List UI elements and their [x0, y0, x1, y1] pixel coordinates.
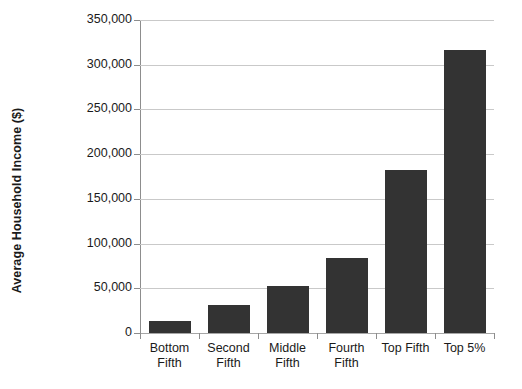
x-category-label: Top Fifth	[376, 341, 435, 356]
gridline	[140, 154, 494, 155]
bar	[326, 258, 368, 333]
x-tick-mark	[140, 333, 141, 339]
bar	[208, 305, 250, 333]
gridline	[140, 65, 494, 66]
y-axis-tick-labels: 050,000100,000150,000200,000250,000300,0…	[0, 20, 132, 333]
y-tick-mark	[134, 199, 140, 200]
y-tick-label: 150,000	[4, 191, 132, 205]
x-category-label: Middle Fifth	[258, 341, 317, 371]
x-tick-mark	[199, 333, 200, 339]
y-tick-label: 50,000	[4, 280, 132, 294]
gridline	[140, 288, 494, 289]
x-tick-mark	[376, 333, 377, 339]
gridline	[140, 20, 494, 21]
x-category-label: Bottom Fifth	[140, 341, 199, 371]
gridline	[140, 199, 494, 200]
gridline	[140, 244, 494, 245]
y-tick-mark	[134, 244, 140, 245]
x-tick-mark	[258, 333, 259, 339]
y-tick-label: 200,000	[4, 146, 132, 160]
x-category-label: Second Fifth	[199, 341, 258, 371]
y-tick-label: 100,000	[4, 236, 132, 250]
y-tick-mark	[134, 65, 140, 66]
bar	[267, 286, 309, 333]
y-tick-label: 300,000	[4, 57, 132, 71]
bar	[149, 321, 191, 333]
gridline	[140, 109, 494, 110]
x-tick-mark	[494, 333, 495, 339]
y-tick-label: 350,000	[4, 12, 132, 26]
x-tick-mark	[317, 333, 318, 339]
x-category-label: Fourth Fifth	[317, 341, 376, 371]
y-tick-mark	[134, 333, 140, 334]
y-tick-mark	[134, 20, 140, 21]
y-tick-label: 250,000	[4, 101, 132, 115]
bar-chart: Average Household Income ($) 050,000100,…	[0, 0, 522, 389]
y-tick-label: 0	[4, 325, 132, 339]
y-tick-mark	[134, 154, 140, 155]
x-category-label: Top 5%	[435, 341, 494, 356]
bar	[444, 50, 486, 333]
plot-area	[140, 20, 494, 333]
bar	[385, 170, 427, 333]
x-tick-mark	[435, 333, 436, 339]
y-tick-mark	[134, 109, 140, 110]
y-tick-mark	[134, 288, 140, 289]
